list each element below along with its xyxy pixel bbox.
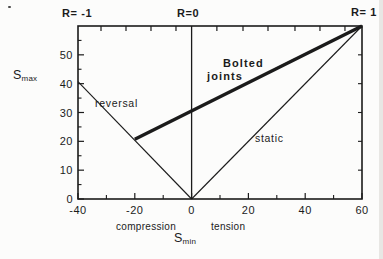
y-tick-label: 50 [43, 49, 73, 61]
scan-speck [8, 6, 11, 8]
smin-base: S [174, 231, 183, 245]
x-axis-label-smin: Smin [174, 232, 196, 248]
y-tick-label: 0 [43, 193, 73, 205]
r-minus-one-label: R= -1 [62, 7, 92, 19]
tension-region-label: tension [211, 221, 245, 233]
static-line-label: static [255, 132, 284, 144]
smax-subscript: max [22, 74, 38, 83]
smin-subscript: min [183, 237, 197, 246]
static-line [192, 26, 362, 199]
bolted-joints-label-line2: joints [207, 70, 243, 82]
smax-base: S [13, 68, 22, 82]
y-axis-label-smax: Smax [13, 69, 37, 85]
bolted-joints-label-line1: Bolted [223, 57, 264, 69]
y-tick-label: 20 [43, 135, 73, 147]
compression-region-label: compression [116, 221, 176, 233]
y-tick-label: 30 [43, 107, 73, 119]
x-tick-label: -40 [69, 204, 86, 216]
x-tick-label: 60 [355, 204, 368, 216]
x-tick-label: 0 [188, 204, 195, 216]
r-one-label: R= 1 [351, 6, 377, 18]
y-tick-label: 40 [43, 78, 73, 90]
x-tick-label: -20 [126, 204, 143, 216]
y-tick-label: 10 [43, 164, 73, 176]
x-tick-label: 40 [299, 204, 312, 216]
bolted-joints-line [135, 26, 362, 139]
scan-edge-strip [379, 0, 383, 259]
r-zero-label: R=0 [177, 7, 199, 19]
chart-canvas [0, 0, 383, 259]
fatigue-diagram-figure: R= -1 R=0 R= 1 Smax reversal Bolted join… [0, 0, 383, 259]
reversal-line-label: reversal [95, 97, 138, 109]
x-tick-label: 20 [242, 204, 255, 216]
plot-border [78, 26, 362, 199]
